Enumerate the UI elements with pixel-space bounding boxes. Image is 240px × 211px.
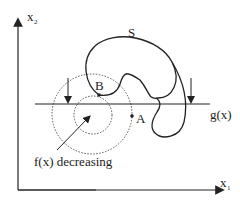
contour-note: f(x) decreasing xyxy=(34,154,113,169)
constraint-label: g(x) xyxy=(210,107,232,122)
point-a-label: A xyxy=(136,111,146,126)
y-axis-subscript: 2 xyxy=(34,18,38,26)
x-axis-label: x xyxy=(220,175,227,190)
set-s-label: S xyxy=(128,25,135,40)
point-a xyxy=(130,114,134,118)
point-b-label: B xyxy=(95,78,104,93)
diagram: x 2 x 1 g(x) S B A f(x) decreasing xyxy=(0,0,240,211)
y-axis-label: x xyxy=(27,9,34,24)
decreasing-arrow xyxy=(57,118,88,150)
set-s-boundary-bottom xyxy=(152,62,186,137)
outer-contour xyxy=(52,74,132,154)
x-axis-subscript: 1 xyxy=(227,184,231,192)
point-b xyxy=(97,93,101,97)
inner-contour xyxy=(74,96,112,134)
